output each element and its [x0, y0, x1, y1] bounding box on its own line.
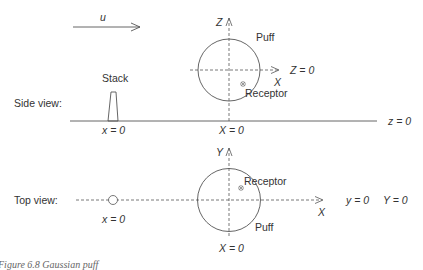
- side-puff-label: Puff: [256, 32, 275, 43]
- stack-label: Stack: [102, 73, 128, 84]
- side-X0-label: X = 0: [219, 125, 244, 136]
- side-view-title: Side view:: [14, 98, 62, 109]
- side-z0-label: Z = 0: [290, 65, 314, 76]
- top-receptor-icon: [239, 186, 244, 191]
- side-receptor-icon: [241, 82, 246, 87]
- y-axis-label: Y: [216, 147, 223, 158]
- top-view-title: Top view:: [14, 195, 58, 206]
- stack-shape: [108, 92, 118, 121]
- figure-caption: Figure 6.8 Gaussian puff: [0, 259, 98, 270]
- side-x0-label: x = 0: [102, 125, 125, 136]
- top-Y0-label: Y = 0: [383, 195, 408, 206]
- top-x-axis-label: X: [318, 207, 325, 218]
- z-axis-label: Z: [216, 17, 222, 28]
- top-puff-label: Puff: [255, 222, 274, 233]
- top-x0-label: x = 0: [102, 214, 125, 225]
- top-receptor-label: Receptor: [244, 176, 287, 187]
- ground-z0-label: z = 0: [388, 116, 411, 127]
- top-stack-circle: [109, 196, 118, 205]
- side-receptor-label: Receptor: [245, 88, 288, 99]
- top-X0-label: X = 0: [219, 243, 244, 254]
- wind-speed-label: u: [100, 12, 106, 23]
- top-y0-label: y = 0: [346, 195, 369, 206]
- side-x-axis-label: X: [274, 77, 281, 88]
- wind-arrow-icon: [73, 23, 140, 31]
